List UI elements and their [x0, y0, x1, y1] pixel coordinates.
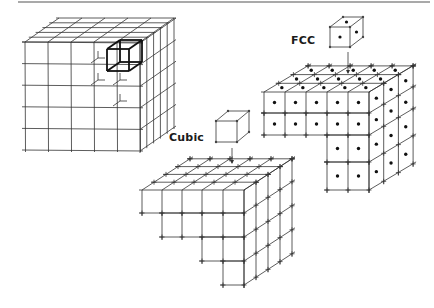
- lattice-node: [215, 141, 217, 143]
- lattice-line: [244, 252, 295, 285]
- lattice-line: [182, 157, 233, 190]
- face-atom-dot: [301, 86, 304, 89]
- lattice-drawing: [0, 0, 434, 308]
- lattice-line: [71, 42, 72, 152]
- lattice-node: [248, 131, 250, 133]
- lattice-line: [22, 85, 143, 86]
- lattice-node: [349, 46, 351, 48]
- face-atom-dot: [316, 77, 319, 80]
- face-atom-dot: [294, 122, 297, 125]
- face-atom-dot: [357, 174, 360, 177]
- lattice-line: [350, 17, 363, 27]
- lattice-line: [25, 42, 26, 152]
- lattice-line: [117, 42, 118, 152]
- face-atom-dot: [394, 69, 397, 72]
- fcc-label: FCC: [291, 34, 315, 47]
- lattice-line: [94, 18, 128, 42]
- lattice-line: [113, 101, 120, 106]
- lattice-line: [348, 64, 395, 92]
- lattice-line: [140, 104, 176, 129]
- lattice-line: [369, 162, 416, 190]
- face-atom-dot: [273, 101, 276, 104]
- lattice-line: [202, 157, 253, 190]
- lattice-node: [342, 16, 344, 18]
- face-atom-dot: [337, 77, 340, 80]
- lattice-line: [369, 64, 416, 92]
- lattice-line: [91, 58, 98, 63]
- lattice-line: [162, 157, 213, 190]
- lattice-line: [330, 17, 343, 27]
- lattice-node: [329, 46, 331, 48]
- lattice-line: [140, 83, 176, 108]
- face-atom-dot: [295, 77, 298, 80]
- face-atom-dot: [331, 69, 334, 72]
- cubic-unit-cell-icon: [215, 110, 250, 143]
- fcc-lattice-cutaway: [261, 63, 416, 193]
- lattice-line: [369, 134, 416, 162]
- face-atom-dot: [404, 153, 407, 156]
- lattice-line: [117, 18, 151, 42]
- face-atom-dot: [357, 147, 360, 150]
- lattice-line: [237, 132, 249, 142]
- lattice-line: [71, 18, 105, 42]
- face-atom-dot: [375, 170, 378, 173]
- lattice-line: [244, 228, 295, 261]
- face-atom-dot: [389, 134, 392, 137]
- lattice-line: [142, 157, 193, 190]
- face-atom-dot: [357, 122, 360, 125]
- lattice-line: [237, 111, 249, 121]
- lattice-node: [362, 36, 364, 38]
- lattice-line: [244, 204, 295, 237]
- lattice-node: [349, 26, 351, 28]
- simple-cubic-lattice-block: [22, 18, 176, 153]
- face-atom-dot: [322, 86, 325, 89]
- lattice-line: [140, 18, 174, 42]
- face-atom-dot: [336, 174, 339, 177]
- face-atom-dot: [310, 69, 313, 72]
- lattice-node: [236, 141, 238, 143]
- lattice-node: [227, 110, 229, 112]
- face-atom-dot: [357, 101, 360, 104]
- face-atom-dot: [355, 30, 358, 33]
- lattice-line: [107, 40, 120, 49]
- cubic-label: Cubic: [169, 131, 204, 144]
- fcc-arrow-icon: [346, 52, 350, 74]
- highlighted-unit-cell: [107, 40, 142, 71]
- lattice-line: [216, 111, 228, 121]
- face-atom-dot: [315, 122, 318, 125]
- face-atom-dot: [280, 86, 283, 89]
- face-atom-dot: [404, 79, 407, 82]
- face-atom-dot: [336, 101, 339, 104]
- face-atom-dot: [373, 69, 376, 72]
- lattice-line: [48, 18, 82, 42]
- lattice-node: [329, 26, 331, 28]
- lattice-line: [140, 40, 176, 65]
- lattice-line: [25, 18, 59, 42]
- cubic-lattice-cutaway: [139, 156, 295, 288]
- face-atom-dot: [375, 96, 378, 99]
- lattice-line: [48, 42, 49, 152]
- crystal-lattice-diagram: FCC Cubic: [0, 0, 434, 308]
- lattice-line: [107, 62, 120, 71]
- lattice-node: [362, 16, 364, 18]
- lattice-node: [248, 110, 250, 112]
- face-atom-dot: [358, 77, 361, 80]
- lattice-line: [140, 61, 176, 86]
- cubic-arrow-icon: [230, 148, 234, 164]
- face-atom-dot: [389, 88, 392, 91]
- lattice-line: [350, 37, 363, 47]
- lattice-line: [223, 157, 274, 190]
- lattice-line: [94, 42, 95, 152]
- face-atom-dot: [273, 122, 276, 125]
- face-atom-dot: [404, 101, 407, 104]
- face-atom-dot: [404, 125, 407, 128]
- face-atom-dot: [375, 142, 378, 145]
- face-atom-dot: [364, 86, 367, 89]
- face-atom-dot: [375, 118, 378, 121]
- face-atom-dot: [315, 101, 318, 104]
- lattice-node: [236, 120, 238, 122]
- face-atom-dot: [294, 101, 297, 104]
- face-atom-dot: [343, 86, 346, 89]
- face-atom-dot: [336, 147, 339, 150]
- face-atom-dot: [389, 109, 392, 112]
